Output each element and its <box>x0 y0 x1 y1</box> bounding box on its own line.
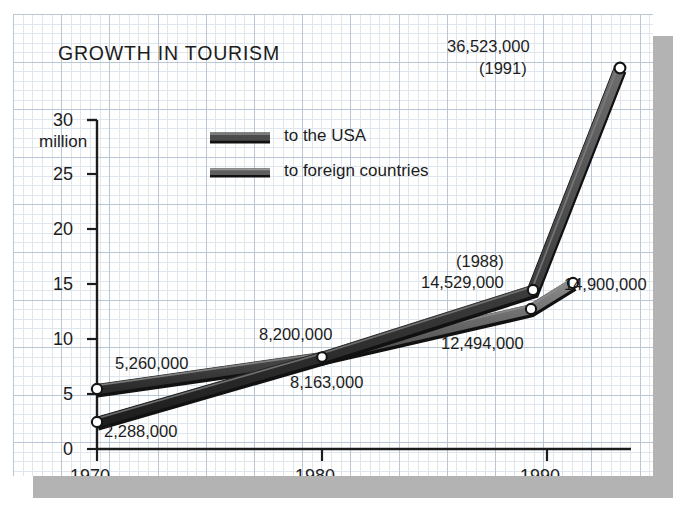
legend-swatches <box>210 134 270 173</box>
y-tick-15: 15 <box>39 274 73 295</box>
chart-title: GROWTH IN TOURISM <box>58 42 280 65</box>
marker-foreign-1988 <box>526 304 536 314</box>
marker-usa-1988 <box>528 285 538 295</box>
data-label-usa-1988-value: 14,529,000 <box>421 273 504 292</box>
marker-usa-1991 <box>615 63 626 74</box>
graph-paper-card: GROWTH IN TOURISM 30 million 25 20 15 10… <box>13 14 653 476</box>
legend-label-to-foreign-countries: to foreign countries <box>284 161 429 181</box>
data-label-usa-1980-value: 8,163,000 <box>290 373 363 392</box>
data-label-usa-1988-year: (1988) <box>456 252 504 271</box>
marker-foreign-1970 <box>92 384 102 394</box>
y-tick-25: 25 <box>39 164 73 185</box>
x-tick-1970: 1970 <box>70 466 110 476</box>
y-tick-20: 20 <box>39 219 73 240</box>
marker-usa-1970 <box>92 417 102 427</box>
chart-plot-area <box>13 14 653 476</box>
y-axis-unit-label: million <box>39 132 87 152</box>
data-label-foreign-1988-value: 12,494,000 <box>441 334 524 353</box>
marker-1980-crossing <box>317 352 327 362</box>
y-tick-10: 10 <box>39 329 73 350</box>
x-tick-1980: 1980 <box>295 466 335 476</box>
data-label-peak-value: 36,523,000 <box>447 37 530 56</box>
data-label-foreign-end-value: 14,900,000 <box>564 275 647 294</box>
y-tick-30: 30 <box>39 110 73 131</box>
y-tick-5: 5 <box>39 384 73 405</box>
chart-screenshot: GROWTH IN TOURISM 30 million 25 20 15 10… <box>0 0 680 532</box>
data-label-usa-1970-value: 2,288,000 <box>104 422 177 441</box>
legend-label-to-the-usa: to the USA <box>284 126 366 146</box>
data-label-foreign-1980-value: 8,200,000 <box>259 325 332 344</box>
y-tick-0: 0 <box>39 439 73 460</box>
data-label-peak-year: (1991) <box>479 59 527 78</box>
x-tick-1990: 1990 <box>520 466 560 476</box>
data-label-foreign-1970-value: 5,260,000 <box>115 354 188 373</box>
